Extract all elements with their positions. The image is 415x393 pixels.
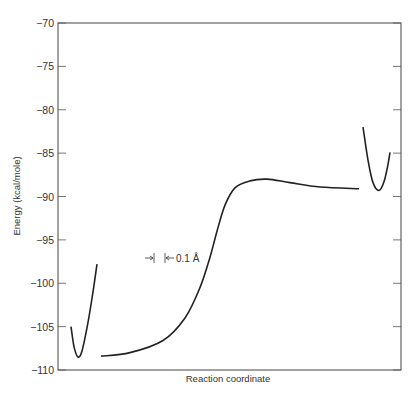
reaction-path-curve [101, 179, 359, 356]
y-tick-label: −100 [30, 277, 54, 289]
y-tick-label: −70 [36, 17, 54, 29]
y-tick-label: −75 [36, 60, 54, 72]
y-axis-label: Energy (kcal/mole) [11, 156, 22, 235]
y-tick-label: −110 [31, 364, 54, 376]
x-axis-label: Reaction coordinate [186, 373, 271, 384]
y-tick-label: −80 [36, 104, 54, 116]
y-tick-label: −105 [30, 321, 54, 333]
y-tick-label: −85 [36, 147, 54, 159]
scale-label: 0.1 Å [176, 252, 200, 264]
product-well-curve [363, 127, 390, 190]
reactant-well-curve [71, 264, 97, 357]
y-tick-label: −90 [36, 191, 54, 203]
y-tick-label: −95 [36, 234, 54, 246]
y-axis-ticks: −70−75−80−85−90−95−100−105−110 [30, 17, 401, 376]
scale-annotation: 0.1 Å [145, 252, 200, 264]
energy-profile-chart: −70−75−80−85−90−95−100−105−110 Energy (k… [0, 0, 415, 393]
data-series [71, 127, 390, 357]
